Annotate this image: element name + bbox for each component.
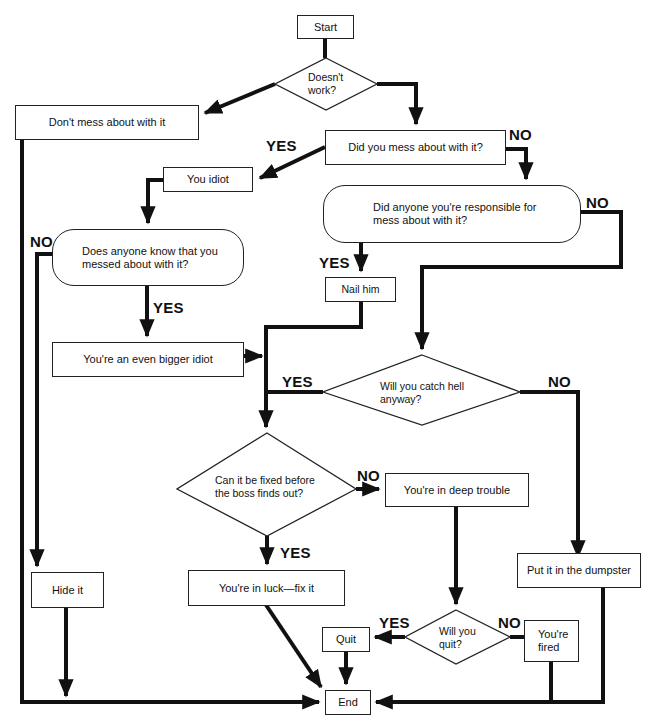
- node-bigger-idiot: You're an even bigger idiot: [52, 342, 244, 377]
- node-hide-it-label: Hide it: [52, 584, 83, 597]
- edge-you-idiot-know: [148, 180, 163, 223]
- node-deep-trouble: You're in deep trouble: [385, 473, 529, 507]
- label-quit-yes: YES: [379, 614, 410, 631]
- edge-luck-end: [266, 605, 321, 687]
- diamond-doesnt-work-line1: Doesn't: [308, 71, 343, 84]
- node-start: Start: [297, 15, 354, 39]
- diamond-doesnt-work-text: Doesn't work?: [308, 71, 343, 97]
- diamond-catch-hell-text: Will you catch hell anyway?: [380, 380, 464, 406]
- node-you-idiot: You idiot: [163, 167, 253, 192]
- node-start-label: Start: [314, 21, 337, 34]
- edge-doesnt-work-dont-mess: [205, 84, 275, 113]
- label-did-you-mess-yes: YES: [266, 137, 297, 154]
- node-quit-label: Quit: [336, 633, 356, 646]
- node-did-anyone-responsible: Did anyone you're responsible for mess a…: [323, 185, 581, 243]
- edge-doesnt-work-did-you-mess: [377, 84, 416, 124]
- node-know-line1: Does anyone know that you: [82, 245, 218, 258]
- node-hide-it: Hide it: [31, 572, 104, 608]
- node-dont-mess-label: Don't mess about with it: [49, 116, 165, 129]
- node-fired-line2: fired: [538, 641, 568, 654]
- label-know-yes: YES: [153, 299, 184, 316]
- diamond-catch-hell-line2: anyway?: [380, 393, 464, 406]
- node-deep-trouble-label: You're in deep trouble: [404, 484, 510, 497]
- diamond-will-you-quit-line2: quit?: [439, 638, 476, 651]
- label-did-you-mess-no: NO: [509, 126, 532, 143]
- diamond-will-you-quit-line1: Will you: [439, 625, 476, 638]
- node-in-luck-label: You're in luck—fix it: [219, 582, 314, 595]
- node-end: End: [325, 690, 371, 715]
- label-fixed-no: NO: [357, 467, 380, 484]
- edge-did-you-mess-no: [505, 149, 526, 179]
- label-catch-hell-no: NO: [548, 373, 571, 390]
- diamond-can-be-fixed-text: Can it be fixed before the boss finds ou…: [215, 474, 315, 500]
- node-you-idiot-label: You idiot: [187, 173, 229, 186]
- node-dumpster: Put it in the dumpster: [517, 553, 641, 588]
- label-quit-no: NO: [498, 614, 521, 631]
- label-fixed-yes: YES: [280, 544, 311, 561]
- diamond-can-be-fixed-line2: the boss finds out?: [215, 487, 315, 500]
- diamond-doesnt-work-line2: work?: [308, 84, 343, 97]
- node-did-you-mess: Did you mess about with it?: [325, 130, 506, 165]
- label-responsible-no: NO: [586, 194, 609, 211]
- node-responsible-line1: Did anyone you're responsible for: [373, 201, 537, 214]
- node-dumpster-label: Put it in the dumpster: [527, 564, 631, 577]
- node-did-you-mess-label: Did you mess about with it?: [348, 141, 483, 154]
- edge-nail-him: [266, 301, 361, 427]
- node-quit: Quit: [322, 627, 370, 652]
- label-catch-hell-yes: YES: [282, 373, 313, 390]
- node-nail-him: Nail him: [325, 277, 396, 302]
- diamond-will-you-quit-text: Will you quit?: [439, 625, 476, 651]
- node-responsible-line2: mess about with it?: [373, 214, 537, 227]
- node-bigger-idiot-label: You're an even bigger idiot: [83, 353, 213, 366]
- node-dont-mess: Don't mess about with it: [15, 105, 199, 140]
- label-responsible-yes: YES: [319, 254, 350, 271]
- node-end-label: End: [338, 696, 358, 709]
- node-in-luck: You're in luck—fix it: [188, 570, 345, 606]
- diamond-can-be-fixed-line1: Can it be fixed before: [215, 474, 315, 487]
- node-does-anyone-know: Does anyone know that you messed about w…: [52, 229, 244, 286]
- label-know-no: NO: [30, 233, 53, 250]
- node-fired-line1: You're: [538, 628, 568, 641]
- node-know-line2: messed about with it?: [82, 258, 218, 271]
- diamond-catch-hell-line1: Will you catch hell: [380, 380, 464, 393]
- edge-know-no: [37, 254, 52, 566]
- node-fired: You're fired: [524, 620, 579, 662]
- node-nail-him-label: Nail him: [342, 283, 380, 296]
